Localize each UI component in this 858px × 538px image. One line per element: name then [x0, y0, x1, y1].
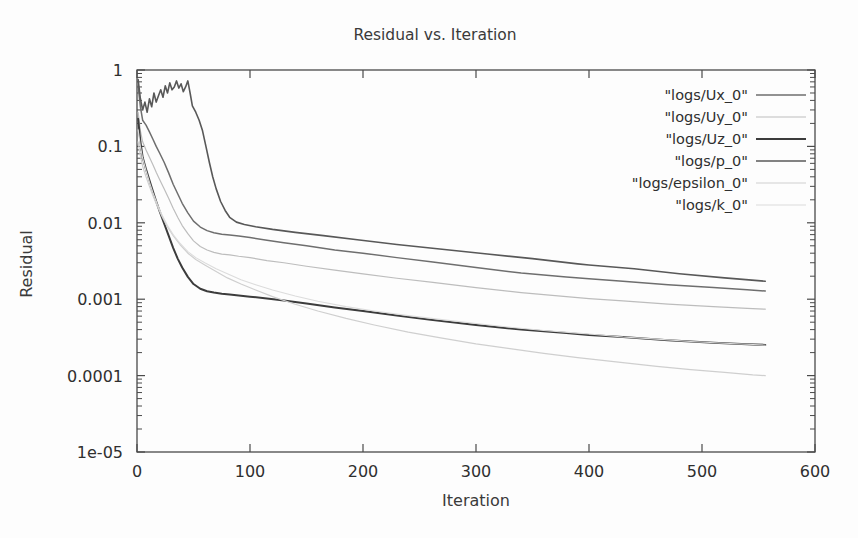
chart-title: Residual vs. Iteration — [353, 26, 516, 44]
residual-chart: Residual vs. Iteration 10.10.010.0010.00… — [0, 0, 858, 538]
y-tick-label: 0.1 — [98, 137, 123, 156]
legend-label: "logs/Ux_0" — [664, 87, 748, 103]
x-tick-label: 400 — [574, 462, 605, 481]
x-tick-label: 200 — [348, 462, 379, 481]
y-tick-label: 0.001 — [77, 290, 123, 309]
legend-label: "logs/epsilon_0" — [632, 175, 748, 191]
legend-label: "logs/Uz_0" — [665, 131, 748, 147]
x-tick-label: 500 — [687, 462, 718, 481]
x-tick-label: 0 — [132, 462, 142, 481]
legend-label: "logs/Uy_0" — [664, 109, 748, 125]
y-tick-label: 0.0001 — [67, 367, 123, 386]
chart-canvas: Residual vs. Iteration 10.10.010.0010.00… — [0, 0, 858, 538]
y-axis-label: Residual — [17, 230, 36, 298]
x-tick-label: 600 — [800, 462, 831, 481]
chart-background — [0, 0, 858, 538]
y-tick-label: 1e-05 — [77, 443, 123, 462]
legend-label: "logs/p_0" — [674, 153, 748, 169]
y-tick-label: 1 — [113, 61, 123, 80]
y-tick-label: 0.01 — [87, 214, 123, 233]
x-tick-label: 100 — [235, 462, 266, 481]
x-axis-label: Iteration — [442, 491, 510, 510]
x-tick-label: 300 — [461, 462, 492, 481]
legend-label: "logs/k_0" — [675, 197, 748, 213]
